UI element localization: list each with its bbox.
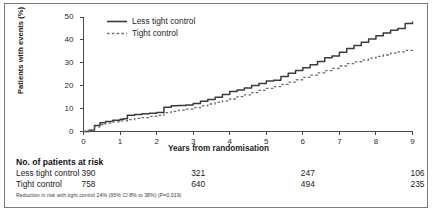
x-axis-title: Years from randomisation: [168, 144, 269, 153]
footnote-risk-reduction: Reduction in risk with tight control 24%…: [16, 192, 181, 198]
y-tick-label: 40: [56, 35, 74, 44]
legend-entry-tight-control: Tight control: [107, 27, 195, 39]
risk-value: 758: [72, 179, 96, 189]
chart-legend: Less tight control Tight control: [107, 15, 195, 39]
x-tick-label: 1: [113, 137, 127, 146]
risk-row-label-tight-control: Tight control: [16, 179, 62, 189]
risk-value: 247: [291, 168, 315, 178]
x-tick-label: 2: [150, 137, 164, 146]
y-tick-label: 30: [56, 58, 74, 67]
legend-label-tight-control: Tight control: [132, 28, 178, 38]
x-tick-label: 7: [332, 137, 346, 146]
y-axis-ticks: [80, 17, 84, 132]
legend-dotted-line-icon: [107, 29, 127, 38]
x-tick-label: 6: [296, 137, 310, 146]
x-tick-label: 0: [77, 137, 91, 146]
y-tick-label: 50: [56, 12, 74, 21]
y-axis-title: Patients with events (%): [16, 0, 25, 103]
risk-value: 494: [291, 179, 315, 189]
y-tick-label: 20: [56, 81, 74, 90]
legend-solid-line-icon: [107, 17, 127, 26]
table-row: Tight control 758 640 494 235: [16, 179, 420, 190]
risk-row-label-less-tight-control: Less tight control: [16, 168, 79, 178]
legend-entry-less-tight-control: Less tight control: [107, 15, 195, 27]
risk-value: 640: [181, 179, 205, 189]
y-tick-label: 0: [56, 127, 74, 136]
x-axis-ticks: [84, 132, 413, 136]
legend-label-less-tight-control: Less tight control: [132, 16, 195, 26]
risk-table-title: No. of patients at risk: [16, 157, 420, 167]
kaplan-meier-figure: 01020304050 0123456789 Patients with eve…: [0, 0, 432, 214]
x-tick-label: 8: [369, 137, 383, 146]
x-tick-label: 9: [406, 137, 420, 146]
risk-value: 235: [401, 179, 425, 189]
risk-value: 106: [401, 168, 425, 178]
series-line-tight-control: [84, 49, 413, 131]
patients-at-risk-table: No. of patients at risk Less tight contr…: [16, 157, 420, 190]
risk-value: 390: [72, 168, 96, 178]
y-tick-label: 10: [56, 104, 74, 113]
table-row: Less tight control 390 321 247 106: [16, 168, 420, 179]
risk-value: 321: [181, 168, 205, 178]
